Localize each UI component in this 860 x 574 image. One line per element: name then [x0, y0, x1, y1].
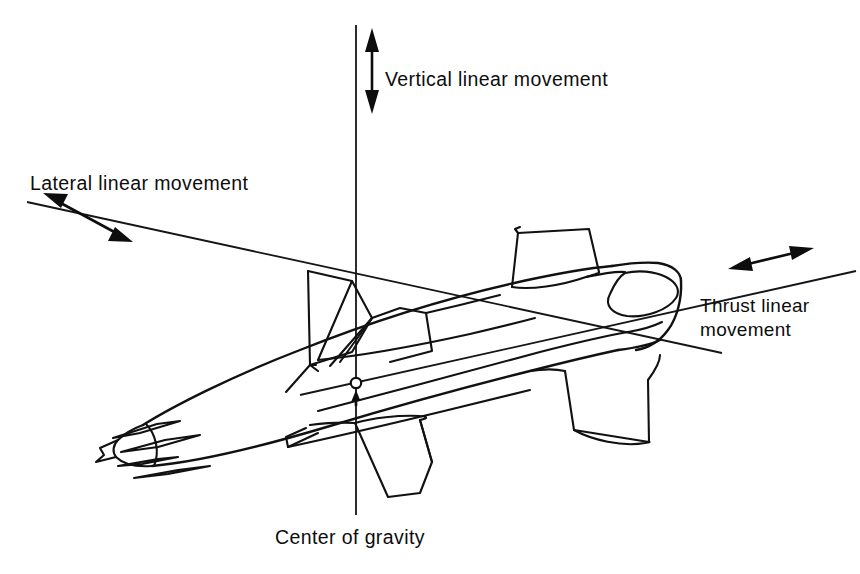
forward-strake-lower-right [134, 466, 210, 478]
vertical-movement-label: Vertical linear movement [385, 68, 608, 90]
vertical-arrow-head-down [365, 90, 379, 114]
thrust-movement-arrow [728, 246, 814, 271]
thrust-arrow-shaft [744, 252, 798, 265]
lateral-movement-arrow [43, 193, 133, 242]
fuselage-bottom-edge [152, 350, 618, 466]
fuselage-top-edge [143, 266, 612, 425]
lower-intake-duct-root [530, 370, 565, 372]
lateral-arrow-shaft [57, 201, 118, 234]
vertical-arrow-head-up [365, 28, 379, 52]
center-of-gravity-circle [351, 378, 361, 388]
dorsal-fin-leading-edge [308, 271, 316, 365]
center-of-gravity-label: Center of gravity [275, 526, 425, 548]
dorsal-fin-outline [308, 271, 372, 365]
thrust-movement-label-line2: movement [700, 319, 792, 340]
figure-canvas: Vertical linear movement Lateral linear … [0, 0, 860, 574]
forward-strake-upper-right [121, 435, 200, 452]
upper-intake-duct-body [512, 229, 599, 287]
upper-wing-root-line [318, 318, 535, 360]
lower-intake-duct-upper-edge [648, 355, 660, 380]
port-fin-stub [286, 365, 318, 392]
missile-degrees-of-freedom-diagram: Vertical linear movement Lateral linear … [0, 0, 860, 574]
missile-body [96, 263, 681, 478]
thrust-arrow-head-left [728, 257, 753, 271]
fuselage-ridge-line [318, 332, 628, 411]
nozzle-inner-ellipse [608, 271, 678, 316]
ventral-fin-outline [355, 420, 432, 497]
lateral-axis-line [27, 202, 722, 353]
thrust-movement-label-line1: Thrust linear [700, 295, 810, 316]
ventral-fin-trailing-edge [420, 420, 432, 462]
tail-ridge-connector [628, 322, 662, 332]
vertical-movement-arrow [365, 28, 379, 114]
lateral-movement-label: Lateral linear movement [30, 172, 249, 194]
thrust-arrow-head-right [789, 246, 814, 260]
lower-body-crease-line [288, 390, 530, 447]
